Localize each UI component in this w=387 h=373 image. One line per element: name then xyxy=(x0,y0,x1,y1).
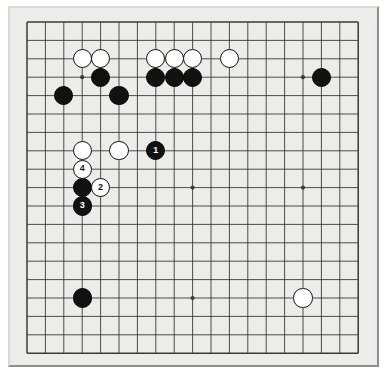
move-number-label: 2 xyxy=(98,183,103,192)
stone-black-5-4[interactable] xyxy=(109,86,128,105)
stone-black-3-9[interactable] xyxy=(73,178,92,197)
stone-black-3-15[interactable] xyxy=(73,288,92,307)
move-number-label: 3 xyxy=(80,201,85,210)
stone-black-4-3[interactable] xyxy=(91,68,110,87)
move-number-label: 4 xyxy=(80,164,85,173)
stone-black-8-3[interactable] xyxy=(165,68,184,87)
stone-black-9-3[interactable] xyxy=(183,68,202,87)
stone-black-16-3[interactable] xyxy=(312,68,331,87)
stone-white-5-7[interactable] xyxy=(109,141,128,160)
go-board-diagram: 1423 xyxy=(0,0,387,373)
move-stone-3[interactable]: 3 xyxy=(73,196,92,215)
move-number-label: 1 xyxy=(153,146,158,155)
stone-white-15-15[interactable] xyxy=(293,288,312,307)
board-playing-surface[interactable]: 1423 xyxy=(0,0,387,373)
move-stone-4[interactable]: 4 xyxy=(73,160,92,179)
